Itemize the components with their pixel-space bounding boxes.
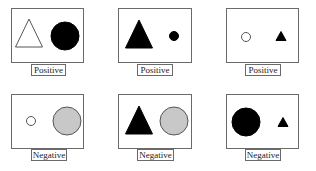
panel-frame: [226, 94, 299, 149]
gray-large-circle-icon: [53, 107, 81, 135]
panel-label: Positive: [31, 64, 66, 76]
black-small-circle-icon: [170, 32, 179, 41]
white-large-triangle-icon: [16, 19, 43, 47]
panel-frame: [11, 94, 84, 149]
black-large-triangle-icon: [126, 106, 153, 134]
panel-shapes: [12, 95, 83, 148]
white-small-circle-icon: [242, 33, 251, 42]
panel-frame: [118, 94, 192, 149]
black-large-circle-icon: [51, 22, 79, 50]
gray-large-circle-icon: [160, 107, 188, 135]
panel-label: Negative: [137, 149, 174, 161]
panel-frame: [11, 8, 84, 63]
white-small-circle-icon: [27, 117, 36, 126]
panel-frame: [226, 8, 299, 63]
panel-frame: [118, 8, 192, 63]
panel-label: Negative: [245, 149, 281, 161]
black-large-circle-icon: [232, 108, 260, 136]
black-large-triangle-icon: [126, 20, 153, 48]
panel-shapes: [227, 9, 298, 62]
panel-shapes: [12, 9, 83, 62]
panel-shapes: [119, 95, 191, 148]
panel-label: Negative: [31, 149, 67, 161]
panel-label: Positive: [245, 64, 281, 76]
panel-label: Positive: [137, 64, 173, 76]
black-small-triangle-icon: [276, 32, 286, 41]
black-small-triangle-icon: [278, 118, 288, 127]
panel-shapes: [119, 9, 191, 62]
panel-shapes: [227, 95, 298, 148]
